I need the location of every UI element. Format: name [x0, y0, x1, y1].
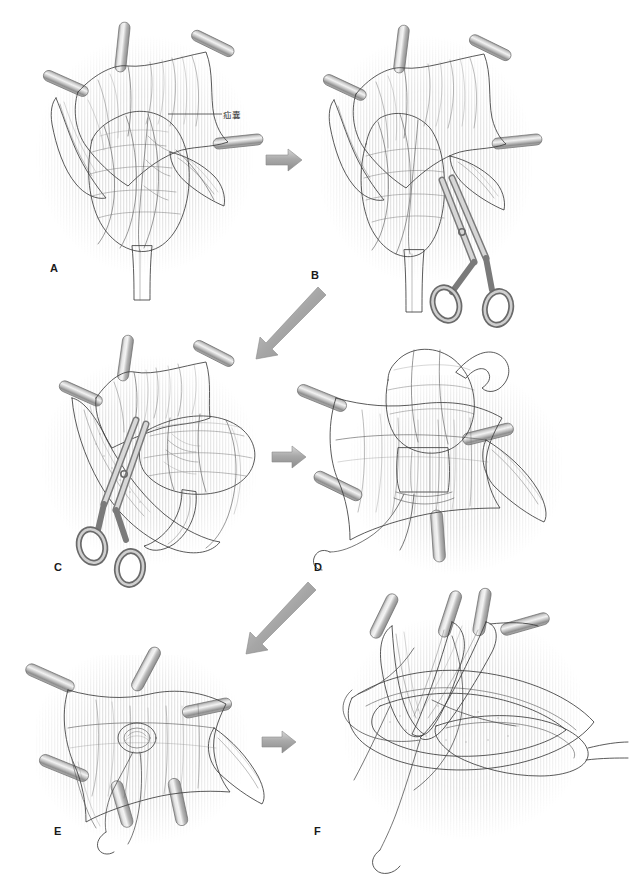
panel-e: [24, 645, 264, 854]
surgical-figure: 疝囊 A B C D E F: [0, 0, 632, 885]
panel-a: [35, 22, 263, 300]
arrow-d-e: [246, 582, 316, 654]
panel-letter-b: B: [311, 269, 319, 281]
panel-letter-e: E: [54, 825, 62, 837]
panel-letter-d: D: [314, 561, 322, 573]
clamp-d1: [296, 383, 349, 414]
panel-d: [296, 349, 565, 575]
arrow-a-b: [266, 149, 302, 171]
panel-letter-f: F: [314, 825, 321, 837]
figure-canvas: [0, 0, 632, 885]
panel-c: [40, 335, 265, 587]
arrow-c-d: [272, 446, 306, 468]
arrow-e-f: [262, 731, 296, 753]
hernia-sac-label: 疝囊: [223, 108, 241, 120]
panel-f: [343, 587, 628, 873]
arrow-b-c: [256, 287, 326, 359]
panel-b: [320, 25, 542, 328]
panel-letter-c: C: [54, 561, 62, 573]
panel-letter-a: A: [50, 262, 58, 274]
